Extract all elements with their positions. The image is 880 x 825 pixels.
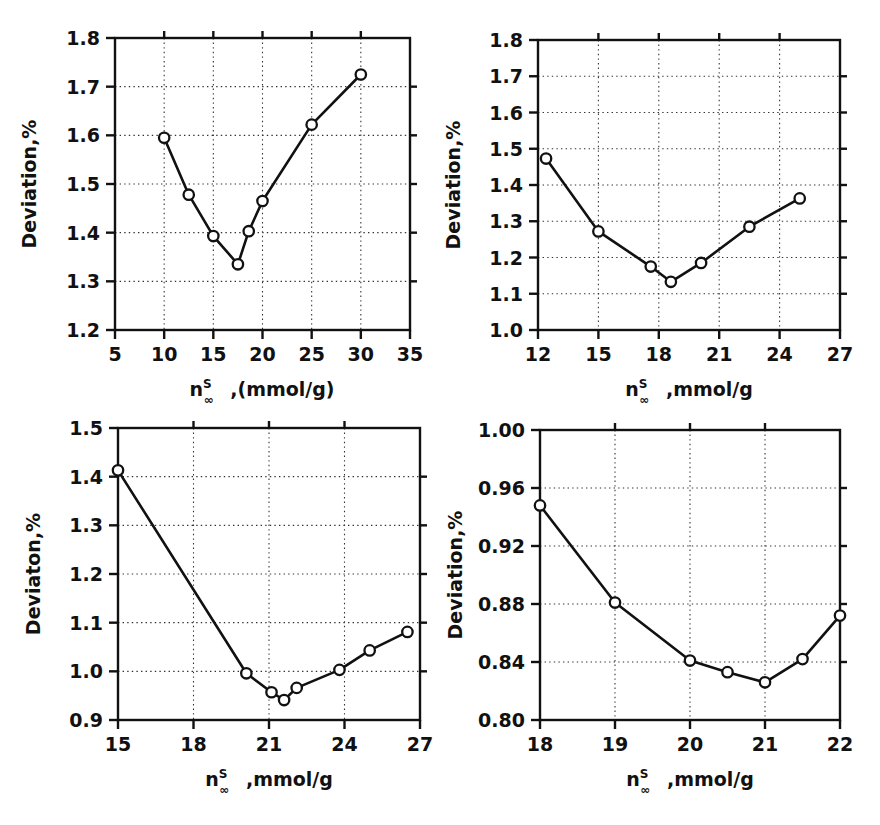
y-tick-label: 0.80 [478,709,525,731]
y-tick-label: 0.92 [478,535,525,557]
plot-frame [540,430,840,720]
data-point [835,610,845,620]
y-tick-label: 0.88 [478,593,525,615]
y-tick-label: 1.00 [478,419,525,441]
y-axis-title: Deviation,% [444,511,466,640]
data-point [760,677,770,687]
data-point [535,500,545,510]
data-point [722,667,732,677]
x-tick-label: 20 [677,733,703,755]
y-tick-label: 0.84 [478,651,525,673]
data-point [797,654,807,664]
x-tick-label: 18 [527,733,553,755]
data-point [685,655,695,665]
axis-ticks [531,423,847,729]
x-tick-label: 22 [827,733,853,755]
data-point-markers [535,500,845,687]
x-tick-label: 19 [602,733,628,755]
x-tick-label: 21 [752,733,778,755]
grid-lines [540,430,840,720]
x-axis-title: nS∞ ,mmol/g [626,767,754,797]
data-point [610,597,620,607]
figure-root: 51015202530351.21.31.41.51.61.71.8Deviat… [0,0,880,825]
chart-panel-panel-d: 18192021220.800.840.880.920.961.00Deviat… [0,0,880,825]
y-tick-label: 0.96 [478,477,525,499]
